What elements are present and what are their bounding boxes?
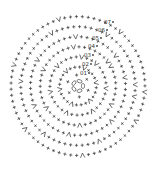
slip-stitch-icon <box>106 29 108 31</box>
sc-stitch-icon <box>81 113 85 117</box>
sc-stitch-icon <box>92 141 96 145</box>
sc-stitch-icon <box>50 95 54 99</box>
sc-stitch-icon <box>47 135 51 139</box>
inc-stitch-icon <box>113 53 119 59</box>
stitch-symbols <box>9 15 147 158</box>
sc-stitch-icon <box>143 78 146 81</box>
sc-stitch-icon <box>19 92 23 96</box>
sc-stitch-icon <box>52 114 57 119</box>
sc-stitch-icon <box>42 101 46 105</box>
sc-stitch-icon <box>106 107 110 111</box>
sc-stitch-icon <box>113 75 117 79</box>
sc-stitch-icon <box>90 72 95 77</box>
sc-stitch-icon <box>113 115 117 119</box>
sc-stitch-icon <box>75 113 78 116</box>
sc-stitch-icon <box>70 112 74 116</box>
sc-stitch-icon <box>11 99 15 103</box>
sc-stitch-icon <box>29 81 32 84</box>
sc-stitch-icon <box>47 45 51 49</box>
slip-stitch-icon <box>100 37 102 39</box>
sc-stitch-icon <box>48 79 52 83</box>
sc-stitch-icon <box>52 68 56 72</box>
sc-stitch-icon <box>35 42 40 47</box>
inc-stitch-icon <box>57 87 62 92</box>
sc-stitch-icon <box>95 129 99 133</box>
sc-stitch-icon <box>75 144 78 147</box>
sc-stitch-icon <box>37 128 42 133</box>
sc-stitch-icon <box>142 96 146 100</box>
sc-stitch-icon <box>51 149 55 153</box>
sc-stitch-icon <box>112 130 117 135</box>
sc-stitch-icon <box>72 123 76 127</box>
inc-stitch-icon <box>71 44 76 49</box>
sc-stitch-icon <box>127 129 132 134</box>
sc-stitch-icon <box>69 153 73 157</box>
sc-stitch-icon <box>103 147 107 151</box>
chain-stitch-icon <box>71 86 77 92</box>
sc-stitch-icon <box>61 73 65 77</box>
sc-stitch-icon <box>63 142 67 146</box>
sc-stitch-icon <box>79 103 83 107</box>
sc-stitch-icon <box>124 88 127 91</box>
chain-stitch-icon <box>77 79 83 84</box>
sc-stitch-icon <box>42 118 47 123</box>
sc-stitch-icon <box>33 123 38 128</box>
sc-stitch-icon <box>56 51 60 55</box>
sc-stitch-icon <box>87 153 91 157</box>
chain-stitch-icon <box>81 83 84 88</box>
sc-stitch-icon <box>92 17 96 21</box>
sc-stitch-icon <box>31 32 36 37</box>
sc-stitch-icon <box>119 105 123 109</box>
sc-stitch-icon <box>20 97 24 101</box>
sc-stitch-icon <box>113 92 117 96</box>
inc-stitch-icon <box>133 118 139 124</box>
sc-stitch-icon <box>55 29 59 33</box>
sc-stitch-icon <box>116 110 120 114</box>
chain-stitch-icon <box>71 80 77 86</box>
sc-stitch-icon <box>78 95 82 99</box>
slip-stitch-icon <box>88 72 90 74</box>
inc-stitch-icon <box>80 153 85 158</box>
round-label: 05 <box>92 35 99 41</box>
sc-stitch-icon <box>23 41 27 45</box>
sc-stitch-icon <box>109 144 113 148</box>
sc-stitch-icon <box>22 103 26 107</box>
sc-stitch-icon <box>143 84 146 87</box>
sc-stitch-icon <box>90 131 94 135</box>
sc-stitch-icon <box>50 73 54 77</box>
sc-stitch-icon <box>75 15 78 18</box>
sc-stitch-icon <box>57 39 61 43</box>
round-label: 07 <box>104 19 111 25</box>
sc-stitch-icon <box>123 94 127 98</box>
sc-stitch-icon <box>94 105 99 110</box>
inc-stitch-icon <box>48 89 53 94</box>
sc-stitch-icon <box>139 60 143 64</box>
sc-stitch-icon <box>130 43 134 47</box>
sc-stitch-icon <box>69 143 73 147</box>
inc-stitch-icon <box>11 62 17 68</box>
sc-stitch-icon <box>105 45 109 49</box>
sc-stitch-icon <box>46 146 50 150</box>
inc-stitch-icon <box>73 34 78 39</box>
inc-stitch-icon <box>22 126 28 132</box>
sc-stitch-icon <box>67 90 71 94</box>
sc-stitch-icon <box>51 126 55 130</box>
sc-stitch-icon <box>93 49 97 53</box>
crochet-chart: 01020304050607 <box>0 0 156 170</box>
sc-stitch-icon <box>91 95 95 99</box>
sc-stitch-icon <box>132 71 136 75</box>
sc-stitch-icon <box>69 15 73 19</box>
inc-stitch-icon <box>94 80 99 85</box>
sc-stitch-icon <box>26 114 30 118</box>
inc-stitch-icon <box>117 29 123 35</box>
sc-stitch-icon <box>31 69 35 73</box>
sc-stitch-icon <box>93 90 97 94</box>
sc-stitch-icon <box>28 51 32 55</box>
inc-stitch-icon <box>105 59 111 65</box>
sc-stitch-icon <box>127 111 131 115</box>
sc-stitch-icon <box>52 100 56 104</box>
sc-stitch-icon <box>73 65 77 69</box>
sc-stitch-icon <box>122 34 127 39</box>
sc-stitch-icon <box>102 112 107 117</box>
sc-stitch-icon <box>61 48 65 52</box>
